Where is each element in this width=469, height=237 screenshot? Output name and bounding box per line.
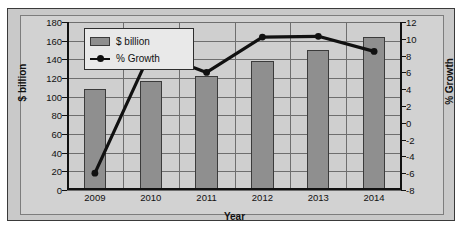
- y-axis-right-tick: [401, 106, 406, 107]
- y-axis-left-tick-label: 100: [46, 91, 62, 102]
- x-axis-title: Year: [67, 211, 402, 222]
- y-axis-left-tick-label: 180: [46, 17, 62, 28]
- y-axis-left-tick-label: 120: [46, 73, 62, 84]
- y-axis-left-tick: [62, 171, 67, 172]
- y-axis-right-tick: [401, 22, 406, 23]
- y-axis-right-tick-label: -6: [406, 168, 414, 179]
- x-axis-tick-label: 2009: [67, 192, 123, 203]
- data-point-marker: [203, 69, 210, 76]
- bar-swatch-icon: [90, 37, 110, 46]
- y-axis-right-tick: [401, 56, 406, 57]
- y-axis-right-title: % Growth: [444, 42, 455, 122]
- y-axis-left-tick: [62, 78, 67, 79]
- data-point-marker: [259, 34, 266, 41]
- y-axis-left-tick: [62, 41, 67, 42]
- legend-item-bar: $ billion: [90, 33, 188, 50]
- y-axis-right-tick-label: 6: [406, 67, 411, 78]
- chart-screenshot: 020406080100120140160180 $ billion -8-6-…: [0, 0, 469, 237]
- y-axis-right-tick: [401, 190, 406, 191]
- y-axis-left-tick-label: 80: [51, 110, 62, 121]
- y-axis-right: -8-6-4-2024681012: [406, 22, 440, 190]
- y-axis-right-tick: [401, 89, 406, 90]
- y-axis-left: 020406080100120140160180: [26, 22, 62, 190]
- legend-label-bar: $ billion: [116, 36, 150, 47]
- y-axis-left-tick-label: 60: [51, 129, 62, 140]
- y-axis-left-title: $ billion: [17, 43, 28, 123]
- y-axis-right-tick: [401, 39, 406, 40]
- x-axis-tick-label: 2012: [235, 192, 291, 203]
- y-axis-right-tick-label: 0: [406, 117, 411, 128]
- y-axis-right-tick: [401, 123, 406, 124]
- x-axis-tick-label: 2010: [123, 192, 179, 203]
- y-axis-left-tick-label: 140: [46, 54, 62, 65]
- data-point-marker: [92, 170, 99, 177]
- y-axis-right-tick-label: -2: [406, 134, 414, 145]
- y-axis-right-tick-label: 4: [406, 84, 411, 95]
- y-axis-right-tick-label: 10: [406, 33, 417, 44]
- y-axis-right-tick-label: -4: [406, 151, 414, 162]
- legend-label-line: % Growth: [116, 53, 160, 64]
- y-axis-left-tick: [62, 97, 67, 98]
- y-axis-right-tick-label: 2: [406, 101, 411, 112]
- y-axis-right-tick-label: -8: [406, 185, 414, 196]
- y-axis-right-tick: [401, 156, 406, 157]
- x-axis-tick-label: 2013: [290, 192, 346, 203]
- y-axis-left-tick-label: 40: [51, 147, 62, 158]
- line-marker-icon: [90, 54, 110, 63]
- x-axis-tick-label: 2011: [179, 192, 235, 203]
- y-axis-left-tick: [62, 59, 67, 60]
- y-axis-right-tick: [401, 72, 406, 73]
- y-axis-left-tick: [62, 134, 67, 135]
- y-axis-right-tick: [401, 140, 406, 141]
- y-axis-left-tick-label: 160: [46, 35, 62, 46]
- y-axis-left-tick: [62, 153, 67, 154]
- chart-legend: $ billion % Growth: [84, 28, 194, 70]
- legend-item-line: % Growth: [90, 50, 188, 67]
- y-axis-left-tick-label: 20: [51, 166, 62, 177]
- data-point-marker: [315, 33, 322, 40]
- data-point-marker: [371, 48, 378, 55]
- x-axis-tick-label: 2014: [346, 192, 402, 203]
- y-axis-right-tick-label: 8: [406, 50, 411, 61]
- y-axis-left-tick: [62, 115, 67, 116]
- y-axis-right-tick: [401, 173, 406, 174]
- y-axis-right-tick-label: 12: [406, 17, 417, 28]
- gridline: [67, 190, 402, 191]
- y-axis-left-tick: [62, 22, 67, 23]
- y-axis-left-tick: [62, 190, 67, 191]
